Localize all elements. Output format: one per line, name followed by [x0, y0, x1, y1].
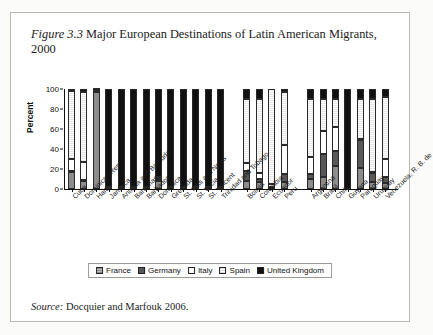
- bar-stack[interactable]: [192, 89, 199, 189]
- bar-stack[interactable]: [118, 89, 125, 189]
- legend-item[interactable]: Italy: [188, 266, 213, 275]
- legend-item[interactable]: France: [96, 266, 131, 275]
- y-tick-label: 20: [50, 165, 59, 174]
- bar-stack[interactable]: [93, 89, 100, 189]
- legend-swatch: [96, 267, 103, 274]
- bar-stack[interactable]: [167, 89, 174, 189]
- legend-swatch: [220, 267, 227, 274]
- legend-label: United Kingdom: [267, 266, 324, 275]
- legend-swatch: [188, 267, 195, 274]
- bar-segment: [344, 89, 351, 189]
- bar-segment: [243, 89, 250, 99]
- chart-legend: FranceGermanyItalySpainUnited Kingdom: [88, 263, 332, 278]
- y-tick-mark: [60, 129, 63, 130]
- y-tick-label: 60: [50, 125, 59, 134]
- bar-segment: [307, 157, 314, 174]
- legend-item[interactable]: United Kingdom: [257, 266, 324, 275]
- y-tick-label: 100: [46, 85, 59, 94]
- source-note: Source: Docquier and Marfouk 2006.: [31, 301, 188, 312]
- y-tick-label: 80: [50, 105, 59, 114]
- bar-segment: [256, 173, 263, 179]
- bar-stack[interactable]: [256, 89, 263, 189]
- bar-stack[interactable]: [344, 89, 351, 189]
- figure-number: Figure 3.3: [31, 27, 83, 41]
- bar-segment: [68, 172, 75, 189]
- bar-stack[interactable]: [369, 89, 376, 189]
- bar-segment: [332, 151, 339, 166]
- figure-frame: Figure 3.3 Major European Destinations o…: [10, 12, 410, 322]
- bar-stack[interactable]: [180, 89, 187, 189]
- legend-label: Italy: [198, 266, 213, 275]
- bar-stack[interactable]: [130, 89, 137, 189]
- bar-stack[interactable]: [68, 89, 75, 189]
- bar-segment: [332, 89, 339, 99]
- chart-plot: Percent 020406080100 CubaDominican Rep.H…: [23, 71, 403, 251]
- bar-segment: [93, 88, 100, 90]
- bar-segment: [243, 99, 250, 163]
- bar-segment: [320, 131, 327, 154]
- bar-stack[interactable]: [307, 89, 314, 189]
- bar-segment: [243, 181, 250, 189]
- bar-segment: [357, 140, 364, 168]
- legend-item[interactable]: Germany: [138, 266, 181, 275]
- y-tick-mark: [60, 169, 63, 170]
- bar-segment: [307, 174, 314, 179]
- bar-segment: [118, 89, 125, 187]
- bar-segment: [217, 89, 224, 187]
- bar-segment: [68, 89, 75, 91]
- bar-segment: [93, 92, 100, 189]
- bar-segment: [268, 89, 275, 184]
- legend-swatch: [257, 267, 264, 274]
- bar-stack[interactable]: [281, 89, 288, 189]
- bar-stack[interactable]: [217, 89, 224, 189]
- y-tick-label: 0: [55, 185, 59, 194]
- bar-segment: [320, 154, 327, 177]
- bar-segment: [369, 89, 376, 99]
- bar-segment: [130, 89, 137, 187]
- legend-item[interactable]: Spain: [220, 266, 250, 275]
- bar-segment: [382, 159, 389, 177]
- bar-segment: [320, 99, 327, 131]
- bar-segment: [369, 99, 376, 172]
- bar-segment: [80, 162, 87, 180]
- bar-segment: [332, 127, 339, 151]
- y-tick-mark: [60, 189, 63, 190]
- bar-segment: [307, 89, 314, 99]
- bar-segment: [357, 99, 364, 139]
- bar-segment: [382, 89, 389, 97]
- bar-segment: [307, 99, 314, 157]
- y-tick-label: 40: [50, 145, 59, 154]
- bar-segment: [281, 145, 288, 174]
- y-axis-ticks: 020406080100: [37, 89, 63, 189]
- bar-stack[interactable]: [155, 89, 162, 189]
- bar-segment: [307, 179, 314, 189]
- bar-segment: [80, 89, 87, 92]
- legend-label: France: [106, 266, 131, 275]
- y-tick-mark: [60, 89, 63, 90]
- bar-segment: [281, 92, 288, 145]
- bar-segment: [382, 97, 389, 159]
- legend-swatch: [138, 267, 145, 274]
- source-text: Docquier and Marfouk 2006.: [66, 301, 188, 312]
- y-tick-mark: [60, 109, 63, 110]
- bar-segment: [167, 89, 174, 187]
- bar-segment: [332, 99, 339, 127]
- bar-stack[interactable]: [357, 89, 364, 189]
- bar-stack[interactable]: [320, 89, 327, 189]
- y-axis-title: Percent: [25, 102, 35, 133]
- bar-segment: [192, 89, 199, 187]
- x-tick-mark: [221, 189, 222, 192]
- bar-segment: [68, 91, 75, 159]
- bar-segment: [256, 89, 263, 99]
- bar-segment: [80, 92, 87, 162]
- figure-title: Figure 3.3 Major European Destinations o…: [31, 27, 391, 57]
- figure-title-text: Major European Destinations of Latin Ame…: [31, 27, 377, 56]
- bar-segment: [180, 89, 187, 187]
- bar-segment: [281, 89, 288, 92]
- bar-stack[interactable]: [332, 89, 339, 189]
- bar-stack[interactable]: [268, 89, 275, 189]
- y-tick-mark: [60, 149, 63, 150]
- bar-stack[interactable]: [80, 89, 87, 189]
- x-tick-mark: [311, 189, 312, 192]
- bar-stack[interactable]: [382, 89, 389, 189]
